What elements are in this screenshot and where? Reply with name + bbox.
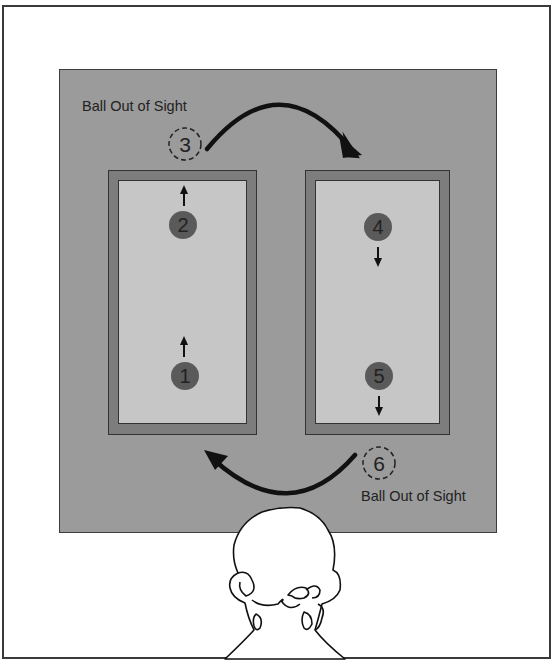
- up-arrow-icon: [180, 185, 188, 206]
- ball-1-number: 1: [179, 365, 190, 387]
- ball-2: 2: [169, 211, 197, 239]
- ball-1: 1: [171, 362, 199, 390]
- up-arrow-icon: [180, 336, 188, 357]
- ball-2-number: 2: [177, 214, 188, 236]
- ball-6-out-of-sight: 6: [363, 447, 395, 479]
- down-arrow-icon: [375, 396, 383, 416]
- arc-arrow-bottom: [204, 450, 355, 493]
- arc-arrow-top: [207, 105, 363, 159]
- ball-4: 4: [364, 213, 392, 241]
- ball-5: 5: [365, 362, 393, 390]
- down-arrow-icon: [374, 247, 382, 267]
- observer-head-icon: [225, 508, 345, 660]
- ball-3-out-of-sight: 3: [169, 128, 201, 160]
- ball-6-number: 6: [373, 452, 385, 475]
- ball-3-number: 3: [179, 133, 191, 156]
- ball-4-number: 4: [372, 216, 383, 238]
- diagram-overlay: 1 2 3 4 5 6: [0, 0, 555, 667]
- ball-5-number: 5: [373, 365, 384, 387]
